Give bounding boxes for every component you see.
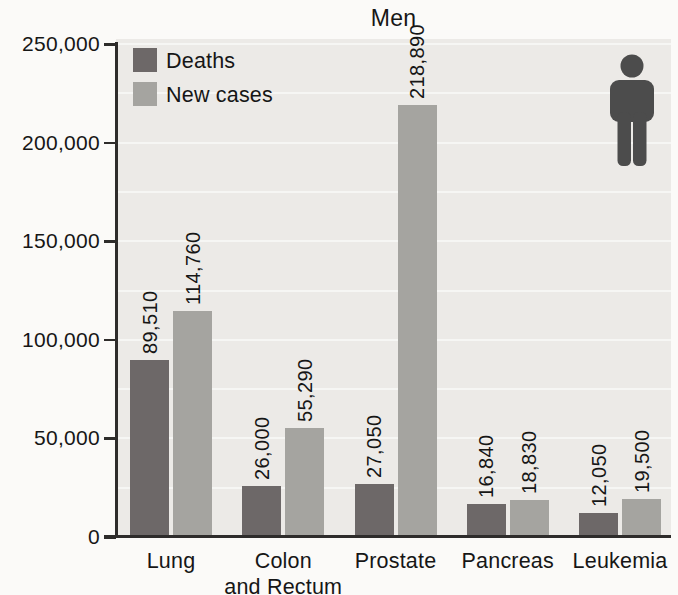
deaths-bar-pancreas <box>467 504 506 537</box>
man-icon <box>603 54 661 168</box>
bar-value-label: 26,000 <box>252 416 272 480</box>
y-tick-label: 200,000 <box>0 130 100 156</box>
y-tick-label: 100,000 <box>0 327 100 353</box>
bar-value-label: 114,760 <box>183 231 203 305</box>
x-axis-line <box>104 535 671 538</box>
new-cases-bar-pancreas <box>510 500 549 537</box>
deaths-bar-colon-and-rectum <box>242 486 281 537</box>
y-axis-line <box>115 42 118 537</box>
y-tick-label: 0 <box>0 524 100 550</box>
new-cases-bar-colon-and-rectum <box>285 428 324 537</box>
y-tick-label: 150,000 <box>0 228 100 254</box>
bar-value-label: 19,500 <box>632 429 652 493</box>
chart-title: Men <box>116 5 671 32</box>
new-cases-legend-label: New cases <box>166 83 273 107</box>
deaths-bar-lung <box>130 360 169 537</box>
bar-value-label: 218,890 <box>407 24 427 99</box>
deaths-legend-label: Deaths <box>166 49 235 73</box>
bar-value-label: 16,840 <box>476 434 496 498</box>
new-cases-bar-prostate <box>398 105 437 537</box>
new-cases-bar-leukemia <box>622 499 661 537</box>
bar-value-label: 27,050 <box>364 414 384 478</box>
gridline <box>117 142 671 144</box>
y-tick-label: 50,000 <box>0 425 100 451</box>
bar-chart: Men 89,51026,00027,05016,84012,050114,76… <box>0 0 678 595</box>
bar-value-label: 18,830 <box>519 430 539 494</box>
new-cases-bar-lung <box>173 311 212 537</box>
y-tick-label: 250,000 <box>0 31 100 57</box>
bar-value-label: 55,290 <box>295 358 315 422</box>
deaths-bar-leukemia <box>579 513 618 537</box>
deaths-legend-swatch <box>133 48 157 72</box>
bar-value-label: 12,050 <box>589 444 609 508</box>
category-label-leukemia: Leukemia <box>535 549 678 575</box>
bar-value-label: 89,510 <box>140 291 160 355</box>
gridline <box>117 191 671 193</box>
gridline <box>117 43 671 45</box>
deaths-bar-prostate <box>355 484 394 537</box>
new-cases-legend-swatch <box>133 82 157 106</box>
